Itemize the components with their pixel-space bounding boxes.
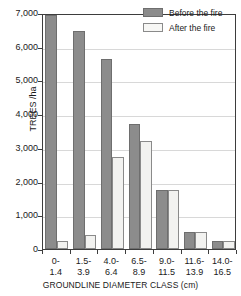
bar-after-fire bbox=[85, 235, 97, 249]
bar-after-fire bbox=[223, 241, 235, 249]
y-tick-label: 4,000 bbox=[15, 109, 38, 119]
y-tick-label: 0 bbox=[33, 244, 38, 254]
x-tick-mark bbox=[153, 250, 154, 254]
bar-after-fire bbox=[57, 241, 69, 249]
legend-item-before: Before the fire bbox=[143, 6, 231, 19]
x-tick-label-line: 16.5 bbox=[202, 267, 241, 278]
x-tick-label: 14.0-16.5 bbox=[202, 256, 241, 277]
legend-swatch-after-icon bbox=[143, 23, 163, 32]
x-tick-mark bbox=[236, 250, 237, 254]
legend-swatch-before-icon bbox=[143, 8, 163, 17]
bar-group bbox=[45, 15, 68, 249]
plot-area bbox=[42, 14, 236, 250]
y-tick-label: 2,000 bbox=[15, 177, 38, 187]
bar-before-fire bbox=[129, 124, 141, 249]
x-tick-mark bbox=[42, 250, 43, 254]
y-tick-label: 5,000 bbox=[15, 75, 38, 85]
legend-label-after: After the fire bbox=[169, 23, 215, 33]
x-tick-mark bbox=[208, 250, 209, 254]
bar-before-fire bbox=[45, 15, 57, 249]
bar-group bbox=[212, 15, 235, 249]
bars-layer bbox=[43, 15, 235, 249]
bar-group bbox=[184, 15, 207, 249]
x-axis-title: GROUNDLINE DIAMETER CLASS (cm) bbox=[0, 280, 241, 290]
bar-before-fire bbox=[73, 31, 85, 249]
y-tick-label: 6,000 bbox=[15, 42, 38, 52]
legend-label-before: Before the fire bbox=[169, 8, 222, 18]
bar-before-fire bbox=[101, 59, 113, 249]
x-tick-mark bbox=[70, 250, 71, 254]
bar-before-fire bbox=[184, 232, 196, 249]
legend-item-after: After the fire bbox=[143, 21, 231, 34]
y-tick-label: 3,000 bbox=[15, 143, 38, 153]
x-tick-mark bbox=[181, 250, 182, 254]
bar-group bbox=[129, 15, 152, 249]
x-tick-mark bbox=[97, 250, 98, 254]
bar-after-fire bbox=[168, 190, 180, 249]
bar-before-fire bbox=[156, 190, 168, 249]
legend: Before the fire After the fire bbox=[143, 6, 231, 36]
bar-group bbox=[101, 15, 124, 249]
bar-group bbox=[156, 15, 179, 249]
bar-before-fire bbox=[212, 241, 224, 249]
x-tick-mark bbox=[125, 250, 126, 254]
bar-after-fire bbox=[140, 141, 152, 249]
bar-after-fire bbox=[195, 232, 207, 249]
bar-group bbox=[73, 15, 96, 249]
bar-after-fire bbox=[112, 157, 124, 249]
bar-chart: TREES /ha 01,0002,0003,0004,0005,0006,00… bbox=[0, 0, 241, 296]
x-tick-label-line: 14.0- bbox=[202, 256, 241, 267]
y-tick-label: 7,000 bbox=[15, 8, 38, 18]
y-tick-label: 1,000 bbox=[15, 210, 38, 220]
